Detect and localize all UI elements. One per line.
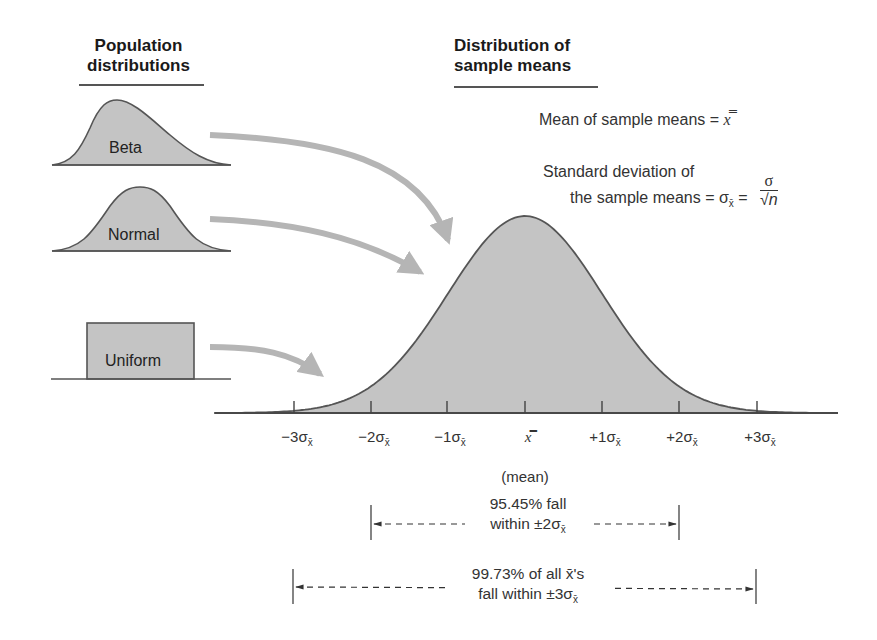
tick-label-text: +2σ — [666, 428, 692, 445]
tick-label-subscript: x̄ — [616, 437, 621, 448]
two-sigma-label: 95.45% fall within ±2σx̄ — [465, 494, 591, 536]
sd-formula-text: the sample means = σ — [570, 189, 729, 206]
mean-caption: (mean) — [493, 468, 557, 485]
three-sigma-line2: fall within ±3σx̄ — [448, 584, 608, 606]
three-sigma-line2-text: fall within ±3σ — [478, 585, 573, 602]
three-sigma-line1: 99.73% of all x̄'s — [448, 564, 608, 584]
tick-label-subscript: x̄ — [308, 437, 313, 448]
sample-means-heading-underline — [454, 86, 598, 88]
normal-to-sample-arrow — [210, 219, 420, 272]
axis-tick-label: +3σx̄ — [725, 428, 795, 445]
axis-tick-label: −3σx̄ — [262, 428, 332, 445]
uniform-to-sample-arrow — [210, 347, 320, 374]
sd-equals: = — [734, 189, 752, 206]
sample-means-heading: Distribution of sample means — [454, 36, 571, 76]
axis-tick-label: +1σx̄ — [570, 428, 640, 445]
mean-of-means-label: Mean of sample means = — [539, 111, 724, 128]
three-sigma-subscript: x̄ — [573, 594, 578, 605]
uniform-label: Uniform — [105, 352, 161, 370]
population-heading-underline — [79, 84, 204, 86]
grand-mean-symbol: x̿ — [724, 111, 731, 128]
population-heading: Population distributions — [87, 36, 190, 76]
sd-subscript: x̄ — [729, 198, 734, 209]
population-heading-line2: distributions — [87, 56, 190, 76]
sample-means-heading-line2: sample means — [454, 56, 571, 76]
normal-label: Normal — [108, 226, 160, 244]
two-sigma-line2: within ±2σx̄ — [468, 514, 588, 536]
beta-to-sample-arrow — [210, 135, 448, 240]
tick-label-text: −3σ — [281, 428, 307, 445]
sd-formula-line2: the sample means = σx̄ = σ √n — [570, 180, 778, 217]
tick-label-text: −2σ — [358, 428, 384, 445]
tick-label-subscript: x̄ — [385, 437, 390, 448]
tick-label-subscript: x̄ — [461, 437, 466, 448]
two-sigma-line2-text: within ±2σ — [490, 515, 561, 532]
diagram-canvas — [0, 0, 877, 640]
sigma-over-root-n: σ √n — [760, 172, 778, 209]
axis-tick-label: −1σx̄ — [415, 428, 485, 445]
tick-label-subscript: x̄ — [693, 437, 698, 448]
fraction-numerator: σ — [760, 172, 778, 191]
sample-means-heading-line1: Distribution of — [454, 36, 571, 56]
two-sigma-subscript: x̄ — [561, 524, 566, 535]
mean-of-means-formula: Mean of sample means = x̿ — [539, 111, 731, 129]
population-heading-line1: Population — [87, 36, 190, 56]
tick-label-text: +3σ — [744, 428, 770, 445]
tick-label-text: +1σ — [589, 428, 615, 445]
beta-label: Beta — [109, 139, 142, 157]
uniform-distribution-shape — [51, 323, 231, 379]
axis-tick-label: +2σx̄ — [647, 428, 717, 445]
axis-tick-label: −2σx̄ — [339, 428, 409, 445]
tick-label-text: −1σ — [434, 428, 460, 445]
tick-label-subscript: x̄ — [771, 437, 776, 448]
fraction-denominator: √n — [760, 191, 778, 209]
two-sigma-line1: 95.45% fall — [468, 494, 588, 514]
sample-means-distribution-curve — [215, 216, 838, 413]
axis-tick-label: x̿ — [493, 428, 563, 446]
sd-formula-line1: Standard deviation of — [543, 163, 694, 181]
three-sigma-label: 99.73% of all x̄'s fall within ±3σx̄ — [445, 564, 611, 606]
tick-label-text: x̿ — [525, 429, 532, 445]
